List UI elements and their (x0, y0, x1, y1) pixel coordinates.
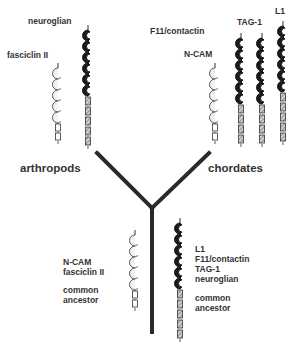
ig-linker (215, 111, 218, 113)
fn3-domain (213, 124, 218, 131)
ancestor-right-line: L1 (195, 244, 205, 254)
ig-domain (257, 60, 265, 71)
fn3-domain (281, 113, 286, 121)
ig-domain (130, 268, 136, 279)
fn3-domain (133, 291, 138, 298)
ig-domain (175, 245, 183, 256)
ig-linker (135, 245, 138, 247)
ig-linker (58, 89, 61, 91)
tree-branch-right (152, 153, 209, 208)
fn3-domain (239, 105, 244, 113)
ig-domain (130, 235, 136, 246)
fn3-domain (178, 320, 183, 328)
molecule-fasciclin-ii (52, 63, 61, 144)
ig-linker (215, 78, 218, 80)
fn3-domain (86, 117, 91, 125)
ancestor-left-line: ancestor (63, 295, 99, 305)
ig-domain (257, 82, 265, 93)
label-neuroglian: neuroglian (28, 16, 71, 26)
fn3-domain (56, 133, 61, 140)
ig-domain (83, 63, 91, 74)
fn3-domain (239, 125, 244, 133)
molecule-l1 (278, 21, 286, 145)
ig-domain (236, 71, 243, 82)
fn3-domain (86, 107, 91, 115)
ig-domain (210, 112, 215, 123)
fn3-domain (260, 125, 265, 133)
ig-domain (236, 82, 243, 93)
fn3-domain (260, 105, 265, 113)
ig-domain (53, 112, 58, 123)
ig-domain (130, 246, 136, 257)
fn3-domain (281, 103, 286, 111)
ancestor-label-left: N-CAM fasciclin II common ancestor (63, 257, 104, 305)
ig-domain (236, 38, 243, 49)
ig-domain (53, 101, 58, 112)
label-tag-1: TAG-1 (237, 17, 262, 27)
molecule-neuroglian (83, 25, 91, 149)
label-f11-contactin: F11/contactin (150, 26, 204, 36)
ig-domain (278, 48, 286, 59)
fn3-domain (178, 310, 183, 318)
ig-domain (83, 52, 91, 63)
molecule-tag-1 (257, 33, 265, 147)
ig-linker (58, 78, 61, 80)
ig-linker (215, 122, 218, 124)
ig-domain (175, 256, 183, 267)
ig-domain (257, 71, 265, 82)
ig-domain (130, 279, 136, 290)
ig-domain (278, 70, 286, 81)
label-n-cam: N-CAM (184, 49, 212, 59)
fn3-domain (260, 115, 265, 123)
ig-domain (83, 74, 91, 85)
ancestor-left-line: common (63, 285, 98, 295)
molecule-f11-contactin (236, 33, 244, 147)
ig-domain (53, 68, 58, 79)
fn3-domain (281, 133, 286, 141)
molecule-ancestor-l1-family (175, 218, 183, 342)
tree-branch-left (97, 153, 152, 208)
ig-domain (210, 101, 215, 112)
ig-domain (236, 93, 243, 104)
ig-domain (175, 267, 183, 278)
ig-linker (135, 256, 138, 258)
ig-domain (53, 90, 58, 101)
ig-domain (236, 60, 243, 71)
ig-domain (210, 90, 215, 101)
ancestor-right-line: common (195, 293, 230, 303)
fn3-domain (260, 135, 265, 143)
fn3-domain (178, 300, 183, 308)
ancestor-right-line: neuroglian (195, 274, 238, 284)
ig-linker (215, 89, 218, 91)
ig-linker (135, 278, 138, 280)
ancestor-right-line: F11/contactin (195, 254, 249, 264)
fn3-domain (56, 124, 61, 131)
ig-domain (175, 234, 183, 245)
ig-domain (175, 223, 183, 234)
ig-domain (278, 37, 286, 48)
ancestor-left-line: fasciclin II (63, 267, 104, 277)
fn3-domain (133, 300, 138, 307)
ig-domain (278, 26, 286, 37)
ancestor-left-line: N-CAM (63, 257, 91, 267)
fn3-domain (86, 97, 91, 105)
branch-label-chordates: chordates (208, 162, 263, 174)
fn3-domain (213, 133, 218, 140)
ig-domain (83, 85, 91, 96)
ig-domain (52, 79, 58, 90)
ancestor-right-line: TAG-1 (195, 264, 220, 274)
branch-label-arthropods: arthropods (20, 162, 81, 174)
fn3-domain (86, 137, 91, 145)
ig-domain (257, 49, 265, 60)
ig-domain (278, 81, 286, 92)
fn3-domain (281, 123, 286, 131)
ig-domain (257, 38, 265, 49)
ig-linker (135, 289, 138, 291)
ig-domain (278, 59, 286, 70)
ig-domain (257, 93, 265, 104)
ig-domain (210, 68, 215, 79)
label-fasciclin-ii: fasciclin II (7, 50, 48, 60)
ancestor-label-right: L1 F11/contactin TAG-1 neuroglian common… (195, 244, 249, 313)
fn3-domain (86, 127, 91, 135)
ig-domain (83, 30, 91, 41)
